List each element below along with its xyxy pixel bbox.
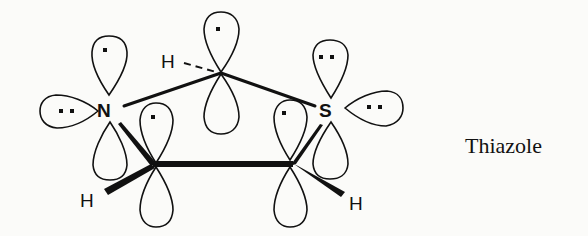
atom-s: S xyxy=(319,100,332,121)
s-lone-pair-dot xyxy=(378,105,382,109)
n-left-lobe xyxy=(40,95,98,128)
atom-h-right: H xyxy=(349,193,363,214)
n-bottom-lobe xyxy=(93,122,127,180)
s-lone-pair-dot xyxy=(330,55,334,59)
s-lone-pair-dot xyxy=(367,105,371,109)
bond-c5-h-wedge xyxy=(294,164,345,197)
nitrogen-orbitals xyxy=(40,36,127,180)
thiazole-orbital-diagram: N S H H H Thiazole xyxy=(0,0,588,236)
n-lone-pair-dot xyxy=(70,109,74,113)
atom-n: N xyxy=(97,100,111,121)
n-top-dot xyxy=(103,48,107,52)
atom-h-top: H xyxy=(161,51,175,72)
c4-dot xyxy=(151,115,155,119)
s-top-lobe xyxy=(313,40,348,98)
bond-n-c4-wedge xyxy=(118,122,157,166)
ch-bonds xyxy=(104,63,345,197)
c5-dot xyxy=(282,111,286,115)
n-lone-pair-dot xyxy=(59,109,63,113)
c2-top-lobe xyxy=(204,12,239,72)
atom-h-left: H xyxy=(80,190,94,211)
s-right-lobe xyxy=(345,91,403,126)
c2-dot xyxy=(216,27,220,31)
s-lone-pair-dot xyxy=(319,55,323,59)
c5-bottom-lobe xyxy=(274,167,307,227)
c4-bottom-lobe xyxy=(140,167,173,227)
bond-c2-h-dashed xyxy=(184,63,216,72)
c2-bottom-lobe xyxy=(204,74,239,134)
figure-caption: Thiazole xyxy=(465,133,542,158)
n-top-lobe xyxy=(92,36,127,95)
